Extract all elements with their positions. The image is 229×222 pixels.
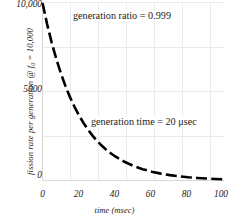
x-axis-label: time (msec) — [0, 205, 229, 215]
y-tick-label-5000: 5000 — [8, 84, 42, 94]
x-tick-label-40: 40 — [100, 189, 130, 199]
y-tick-label-0: 0 — [14, 170, 42, 180]
grid-horizontal — [43, 3, 225, 181]
x-tick-label-60: 60 — [136, 189, 166, 199]
chart-figure: fission rate per generation @ f0 = 10,00… — [0, 0, 229, 222]
y-axis-label: fission rate per generation @ f0 = 10,00… — [25, 12, 36, 192]
x-tick-label-0: 0 — [28, 189, 58, 199]
x-tick-label-100: 100 — [206, 189, 229, 199]
x-tick-label-20: 20 — [64, 189, 94, 199]
y-tick-label-10000: 10,000 — [0, 0, 42, 9]
y-axis-label-subscript: 0 — [29, 63, 36, 66]
annotation-generation-time: generation time = 20 μsec — [90, 116, 198, 127]
x-tick-label-80: 80 — [172, 189, 202, 199]
annotation-generation-ratio: generation ratio = 0.999 — [72, 10, 172, 21]
y-axis-label-prefix: fission rate per generation @ f — [25, 66, 35, 175]
y-axis-label-suffix: = 10,000 — [25, 28, 35, 63]
